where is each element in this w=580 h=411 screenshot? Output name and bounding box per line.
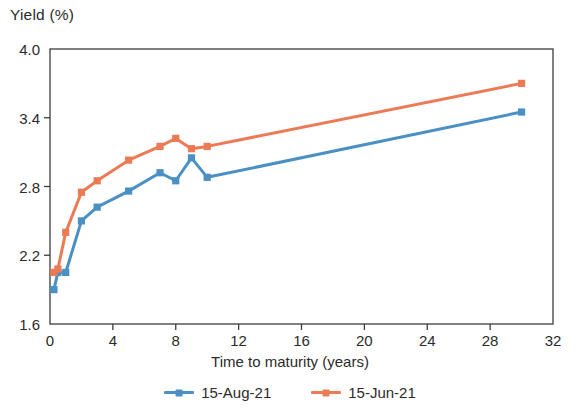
x-tick-label: 20: [344, 332, 384, 349]
chart-plot-area: [0, 0, 580, 411]
y-tick-label: 2.8: [0, 178, 40, 195]
plot-frame: [50, 49, 553, 324]
data-point-marker: [78, 189, 85, 196]
x-axis-title: Time to maturity (years): [0, 353, 580, 370]
chart-series-2: [50, 80, 525, 276]
data-point-marker: [188, 145, 195, 152]
y-tick-label: 1.6: [0, 316, 40, 333]
series-line: [54, 112, 522, 290]
legend-line-marker-icon: [311, 391, 341, 394]
x-tick-label: 12: [219, 332, 259, 349]
data-point-marker: [62, 269, 69, 276]
data-point-marker: [156, 143, 163, 150]
legend-label: 15-Aug-21: [201, 384, 271, 401]
legend-label: 15-Jun-21: [348, 384, 416, 401]
x-tick-label: 28: [470, 332, 510, 349]
data-point-marker: [518, 80, 525, 87]
data-point-marker: [172, 177, 179, 184]
legend-item[interactable]: 15-Jun-21: [311, 384, 416, 401]
y-tick-label: 3.4: [0, 109, 40, 126]
data-point-marker: [78, 217, 85, 224]
data-point-marker: [518, 108, 525, 115]
y-tick-label: 2.2: [0, 247, 40, 264]
data-point-marker: [54, 265, 61, 272]
data-point-marker: [172, 135, 179, 142]
legend-item[interactable]: 15-Aug-21: [164, 384, 271, 401]
chart-series-1: [50, 108, 525, 293]
data-point-marker: [50, 286, 57, 293]
x-tick-label: 16: [282, 332, 322, 349]
data-point-marker: [188, 154, 195, 161]
x-tick-label: 24: [407, 332, 447, 349]
x-tick-label: 8: [156, 332, 196, 349]
legend-line-marker-icon: [164, 391, 194, 394]
data-point-marker: [204, 143, 211, 150]
y-tick-label: 4.0: [0, 41, 40, 58]
data-point-marker: [204, 174, 211, 181]
data-point-marker: [94, 204, 101, 211]
data-point-marker: [156, 169, 163, 176]
x-tick-label: 0: [30, 332, 70, 349]
chart-container: Yield (%) Time to maturity (years) 1.62.…: [0, 0, 580, 411]
x-tick-label: 32: [533, 332, 573, 349]
data-point-marker: [125, 157, 132, 164]
chart-legend: 15-Aug-2115-Jun-21: [0, 384, 580, 401]
data-point-marker: [125, 187, 132, 194]
data-point-marker: [94, 177, 101, 184]
x-tick-label: 4: [93, 332, 133, 349]
series-line: [54, 83, 522, 272]
data-point-marker: [62, 229, 69, 236]
